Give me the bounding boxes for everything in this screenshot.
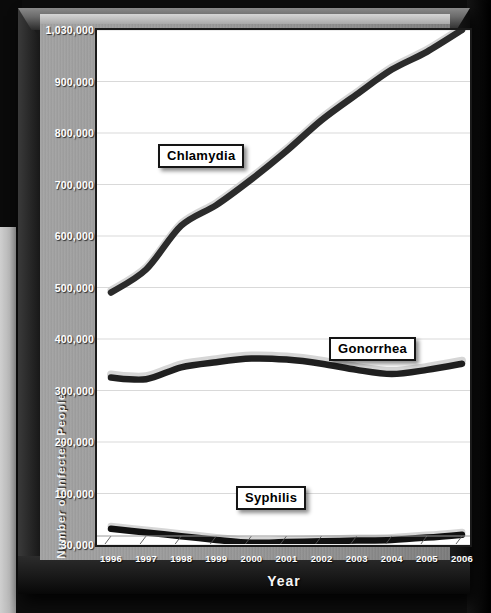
series-callout-gonorrhea: Gonorrhea	[329, 337, 416, 361]
x-tick-label: 2000	[240, 553, 262, 564]
plot-svg	[97, 30, 470, 545]
y-tick-label: 200,000	[16, 436, 94, 448]
series-callout-syphilis: Syphilis	[236, 486, 306, 510]
x-tick-label: 1999	[205, 553, 227, 564]
y-tick-label: 400,000	[16, 333, 94, 345]
y-tick-label: 600,000	[16, 230, 94, 242]
y-tick-label: 1,030,000	[16, 24, 94, 36]
panel-sheen	[40, 14, 450, 24]
x-tick-label: 2004	[381, 553, 403, 564]
series-line-syphilis	[111, 526, 462, 543]
y-tick-label: 900,000	[16, 76, 94, 88]
x-tick-label: 1998	[170, 553, 192, 564]
x-tick-label: 2006	[451, 553, 473, 564]
chart-poster: Number of Infected People 30,000100,0002…	[0, 0, 491, 613]
y-tick-label: 300,000	[16, 385, 94, 397]
y-axis-tick-labels: 30,000100,000200,000300,000400,000500,00…	[8, 0, 94, 613]
x-tick-label: 2003	[346, 553, 368, 564]
x-axis-title: Year	[96, 573, 472, 589]
x-tick-label: 1997	[135, 553, 157, 564]
x-tick-label: 1996	[100, 553, 122, 564]
x-tick-label: 2001	[276, 553, 298, 564]
y-tick-label: 30,000	[16, 539, 94, 551]
x-tick-label: 2005	[416, 553, 438, 564]
series-callout-chlamydia: Chlamydia	[158, 144, 244, 168]
y-tick-label: 800,000	[16, 127, 94, 139]
y-tick-label: 700,000	[16, 179, 94, 191]
plot-area	[95, 28, 472, 547]
x-tick-label: 2002	[311, 553, 333, 564]
y-tick-label: 500,000	[16, 282, 94, 294]
y-tick-label: 100,000	[16, 488, 94, 500]
